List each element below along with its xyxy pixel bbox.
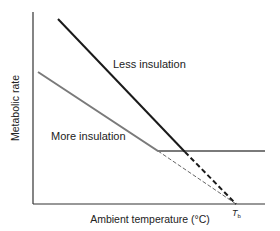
less-insulation-dashed-extrapolation	[185, 152, 236, 204]
more-insulation-dashed-extrapolation	[158, 151, 236, 204]
tb-label-subscript: b	[238, 213, 242, 219]
y-axis-label: Metabolic rate	[9, 75, 21, 141]
insulation-metabolic-rate-diagram: Less insulation More insulation Metaboli…	[0, 0, 280, 231]
tb-label: Tb	[232, 208, 242, 219]
less-insulation-label: Less insulation	[113, 58, 186, 70]
more-insulation-label: More insulation	[51, 130, 126, 142]
x-axis-label: Ambient temperature (°C)	[90, 213, 210, 225]
